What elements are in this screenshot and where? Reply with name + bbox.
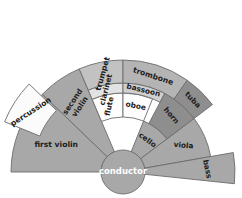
orchestra-seating-diagram: conductor first violinsecondviolincellov… — [0, 0, 242, 198]
seating-chart-canvas: conductor first violinsecondviolincellov… — [0, 0, 242, 198]
conductor-circle[interactable] — [101, 150, 145, 194]
